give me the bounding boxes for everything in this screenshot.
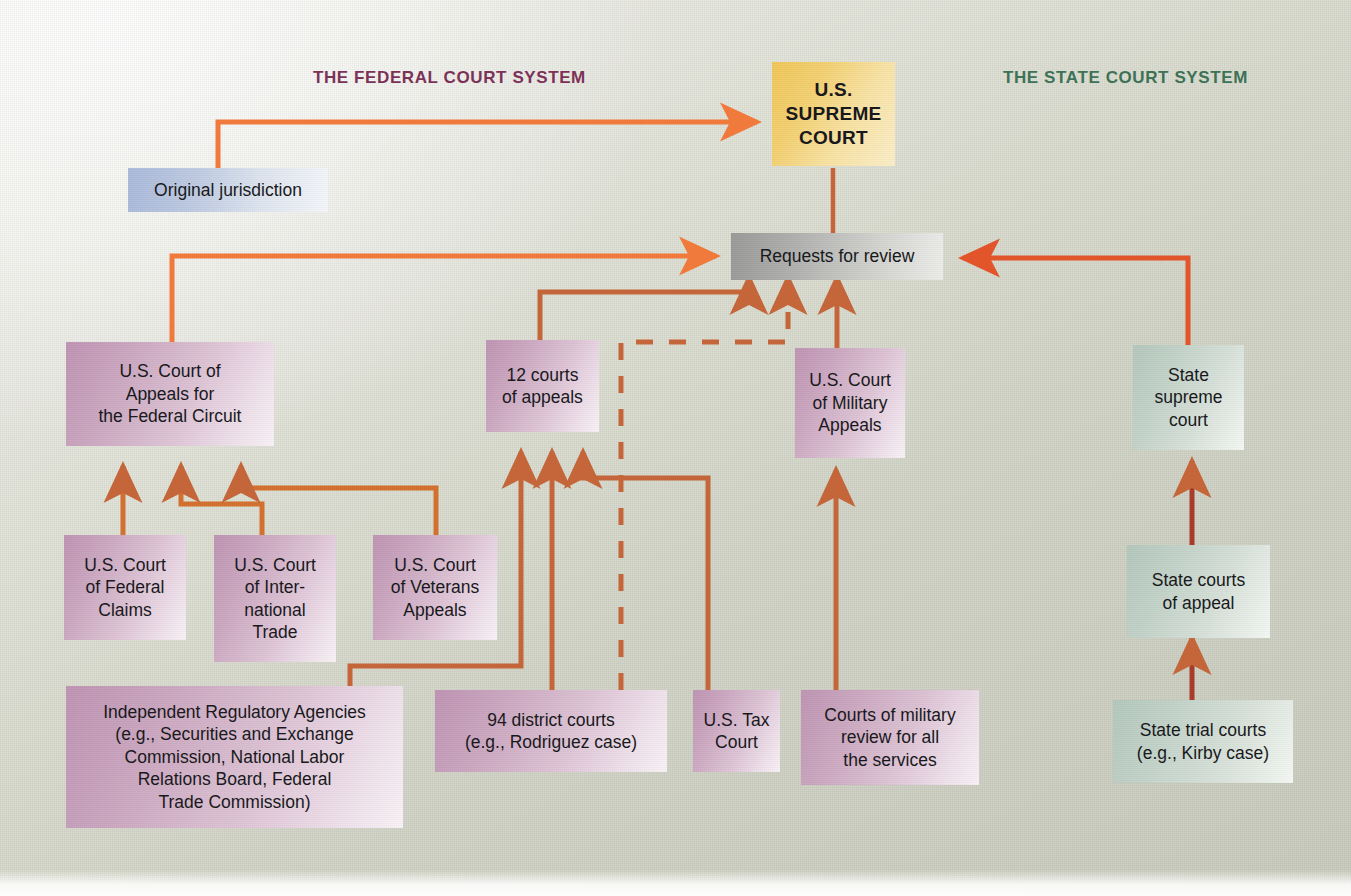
military-appeals-line-1: U.S. Court xyxy=(809,369,891,391)
regulatory-agencies-line-3: Commission, National Labor xyxy=(103,746,366,768)
courts-of-appeals-line-2: of appeals xyxy=(502,386,583,408)
state-court-system-header: THE STATE COURT SYSTEM xyxy=(1003,68,1248,88)
regulatory-agencies-line-5: Trade Commission) xyxy=(103,791,366,813)
military-review-line-3: the services xyxy=(824,749,955,771)
node-courts-of-appeals[interactable]: 12 courts of appeals xyxy=(486,340,599,432)
edge-state-supreme-court-to-requests-for-review xyxy=(963,258,1188,345)
military-appeals-line-3: Appeals xyxy=(809,414,891,436)
state-trial-courts-line-2: (e.g., Kirby case) xyxy=(1137,742,1269,764)
regulatory-agencies-line-1: Independent Regulatory Agencies xyxy=(103,701,366,723)
court-system-diagram: THE FEDERAL COURT SYSTEM THE STATE COURT… xyxy=(0,0,1351,896)
node-international-trade[interactable]: U.S. Court of Inter- national Trade xyxy=(214,535,336,662)
original-jurisdiction-label: Original jurisdiction xyxy=(154,179,302,201)
edge-tax-court-dashed-to-requests-for-review xyxy=(621,300,788,690)
node-district-courts[interactable]: 94 district courts (e.g., Rodriguez case… xyxy=(435,690,667,772)
federal-claims-line-2: of Federal xyxy=(84,576,166,598)
edge-federal-circuit-to-requests-for-review xyxy=(172,256,716,342)
node-veterans-appeals[interactable]: U.S. Court of Veterans Appeals xyxy=(373,535,497,640)
international-trade-line-2: of Inter- xyxy=(234,576,316,598)
edge-tax-court-to-courts-of-appeals xyxy=(583,452,708,690)
state-supreme-court-line-2: supreme xyxy=(1154,386,1222,408)
international-trade-line-1: U.S. Court xyxy=(234,554,316,576)
supreme-court-line-1: U.S. xyxy=(785,78,881,102)
international-trade-line-4: Trade xyxy=(234,621,316,643)
military-review-line-1: Courts of military xyxy=(824,704,955,726)
district-courts-line-1: 94 district courts xyxy=(465,709,637,731)
regulatory-agencies-line-2: (e.g., Securities and Exchange xyxy=(103,723,366,745)
node-military-appeals[interactable]: U.S. Court of Military Appeals xyxy=(795,348,905,458)
federal-court-system-header: THE FEDERAL COURT SYSTEM xyxy=(313,68,586,88)
node-state-supreme-court[interactable]: State supreme court xyxy=(1133,345,1244,450)
federal-circuit-line-2: Appeals for xyxy=(99,383,242,405)
edge-international-trade-to-federal-circuit xyxy=(181,466,262,535)
edge-original-jurisdiction-to-supreme-court xyxy=(218,122,757,170)
federal-circuit-line-3: the Federal Circuit xyxy=(99,405,242,427)
federal-claims-line-3: Claims xyxy=(84,599,166,621)
node-supreme-court[interactable]: U.S. SUPREME COURT xyxy=(772,62,895,166)
veterans-appeals-line-2: of Veterans xyxy=(391,576,480,598)
requests-for-review-label: Requests for review xyxy=(760,245,915,267)
state-courts-of-appeal-line-1: State courts xyxy=(1152,569,1245,591)
district-courts-line-2: (e.g., Rodriguez case) xyxy=(465,731,637,753)
courts-of-appeals-line-1: 12 courts xyxy=(502,364,583,386)
node-requests-for-review[interactable]: Requests for review xyxy=(731,233,943,280)
edge-courts-of-appeals-to-requests-for-review xyxy=(540,291,749,340)
node-regulatory-agencies[interactable]: Independent Regulatory Agencies (e.g., S… xyxy=(66,686,403,828)
international-trade-line-3: national xyxy=(234,599,316,621)
tax-court-line-1: U.S. Tax xyxy=(704,709,770,731)
node-federal-circuit[interactable]: U.S. Court of Appeals for the Federal Ci… xyxy=(66,342,274,446)
regulatory-agencies-line-4: Relations Board, Federal xyxy=(103,768,366,790)
tax-court-line-2: Court xyxy=(704,731,770,753)
node-state-trial-courts[interactable]: State trial courts (e.g., Kirby case) xyxy=(1113,700,1293,783)
federal-claims-line-1: U.S. Court xyxy=(84,554,166,576)
military-review-line-2: review for all xyxy=(824,726,955,748)
military-appeals-line-2: of Military xyxy=(809,392,891,414)
veterans-appeals-line-1: U.S. Court xyxy=(391,554,480,576)
supreme-court-line-3: COURT xyxy=(785,126,881,150)
state-supreme-court-line-1: State xyxy=(1154,364,1222,386)
node-military-review-courts[interactable]: Courts of military review for all the se… xyxy=(801,690,979,785)
state-trial-courts-line-1: State trial courts xyxy=(1137,719,1269,741)
edge-veterans-appeals-to-federal-circuit xyxy=(241,466,436,535)
state-supreme-court-line-3: court xyxy=(1154,409,1222,431)
federal-circuit-line-1: U.S. Court of xyxy=(99,360,242,382)
state-courts-of-appeal-line-2: of appeal xyxy=(1152,592,1245,614)
node-federal-claims[interactable]: U.S. Court of Federal Claims xyxy=(64,535,186,640)
node-original-jurisdiction[interactable]: Original jurisdiction xyxy=(128,168,328,212)
node-state-courts-of-appeal[interactable]: State courts of appeal xyxy=(1127,545,1270,638)
supreme-court-line-2: SUPREME xyxy=(785,102,881,126)
node-tax-court[interactable]: U.S. Tax Court xyxy=(693,690,780,772)
veterans-appeals-line-3: Appeals xyxy=(391,599,480,621)
